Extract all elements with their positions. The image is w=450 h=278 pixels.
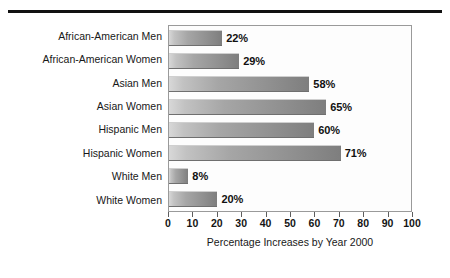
x-axis-tick-label: 100 — [403, 217, 421, 229]
x-axis-tick-label: 30 — [235, 217, 247, 229]
bar-value-label: 29% — [243, 55, 265, 67]
category-label: Hispanic Women — [8, 142, 166, 165]
bar — [169, 53, 239, 69]
bar — [169, 191, 217, 207]
x-axis-tick-label: 70 — [333, 217, 345, 229]
category-label: Asian Women — [8, 95, 166, 118]
bar-value-label: 22% — [226, 32, 248, 44]
category-axis: African-American MenAfrican-American Wom… — [8, 25, 166, 212]
bar — [169, 30, 222, 46]
x-axis-tick-label: 80 — [357, 217, 369, 229]
bar-row: 60% — [169, 119, 411, 142]
bar-row: 65% — [169, 95, 411, 118]
bar — [169, 76, 309, 92]
bar-row: 22% — [169, 26, 411, 49]
bar — [169, 99, 326, 115]
x-axis-tick-label: 50 — [284, 217, 296, 229]
bars-container: 22%29%58%65%60%71%8%20% — [169, 26, 411, 211]
x-axis-tick-label: 10 — [187, 217, 199, 229]
x-axis-title: Percentage Increases by Year 2000 — [168, 236, 412, 248]
bar-value-label: 65% — [330, 101, 352, 113]
bar-value-label: 20% — [221, 193, 243, 205]
category-label: African-American Women — [8, 48, 166, 71]
bar-chart-figure: African-American MenAfrican-American Wom… — [0, 0, 450, 278]
bar — [169, 168, 188, 184]
category-label: Asian Men — [8, 72, 166, 95]
bar-value-label: 71% — [345, 147, 367, 159]
bar-value-label: 60% — [318, 124, 340, 136]
x-axis-tick-label: 60 — [309, 217, 321, 229]
bar-row: 8% — [169, 165, 411, 188]
bar-row: 58% — [169, 72, 411, 95]
x-axis-tick-labels: 0102030405060708090100 — [168, 217, 412, 231]
bar-row: 71% — [169, 142, 411, 165]
category-label: White Women — [8, 189, 166, 212]
bar-value-label: 58% — [313, 78, 335, 90]
bar-row: 20% — [169, 188, 411, 211]
category-label: African-American Men — [8, 25, 166, 48]
bar — [169, 145, 341, 161]
bar-row: 29% — [169, 49, 411, 72]
x-axis-tick-label: 40 — [260, 217, 272, 229]
category-label: Hispanic Men — [8, 119, 166, 142]
bar-value-label: 8% — [192, 170, 208, 182]
plot-area: 22%29%58%65%60%71%8%20% — [168, 25, 412, 212]
category-label: White Men — [8, 165, 166, 188]
x-axis-tick-label: 0 — [165, 217, 171, 229]
x-axis-tick-label: 90 — [382, 217, 394, 229]
top-rule-divider — [8, 10, 442, 13]
bar — [169, 122, 314, 138]
x-axis-tick-label: 20 — [211, 217, 223, 229]
